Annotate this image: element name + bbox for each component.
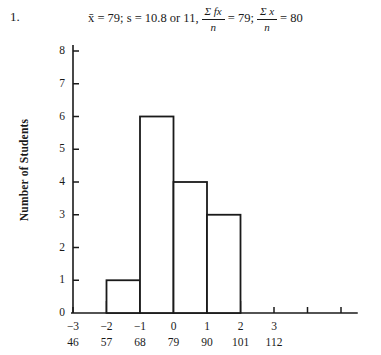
fraction-numerator: Σ x <box>257 5 277 19</box>
histogram-bar <box>107 280 141 313</box>
fraction-denominator: n <box>202 19 225 34</box>
x-axis-ztick-label: 0 <box>161 321 187 333</box>
x-axis-ztick-label: −1 <box>127 321 153 333</box>
item-number: 1. <box>10 10 20 23</box>
y-axis-tick-label: 3 <box>45 209 65 221</box>
y-axis-tick-label: 0 <box>45 307 65 319</box>
fraction-sum-fx-over-n: Σ fx n <box>202 5 225 33</box>
histogram-chart: Number of Students 012345678−346−257−168… <box>0 38 381 355</box>
histogram-bar <box>140 117 174 314</box>
fraction-numerator: Σ fx <box>202 5 225 19</box>
x-axis-value-label: 112 <box>259 337 289 349</box>
histogram-bar <box>174 182 208 313</box>
frac2-equals-value: = 80 <box>280 12 303 25</box>
x-axis-value-label: 46 <box>58 337 88 349</box>
mean-and-sd-text: x̄ = 79; s = 10.8 or 11, <box>88 12 199 25</box>
y-axis-tick-label: 2 <box>45 242 65 254</box>
x-axis-ztick-label: 3 <box>261 321 287 333</box>
x-axis-value-label: 101 <box>226 337 256 349</box>
x-axis-value-label: 68 <box>125 337 155 349</box>
x-axis-ztick-label: 1 <box>194 321 220 333</box>
fraction-sum-x-over-n: Σ x n <box>257 5 277 33</box>
answer-line: 1. x̄ = 79; s = 10.8 or 11, Σ fx n = 79;… <box>0 0 381 38</box>
y-axis-tick-label: 8 <box>45 45 65 57</box>
y-axis-tick-label: 5 <box>45 143 65 155</box>
x-axis-value-label: 79 <box>159 337 189 349</box>
y-axis-tick-label: 1 <box>45 274 65 286</box>
x-axis-ztick-label: −3 <box>60 321 86 333</box>
frac1-equals-value: = 79; <box>228 12 254 25</box>
answer-formula: x̄ = 79; s = 10.8 or 11, Σ fx n = 79; Σ … <box>88 4 303 32</box>
y-axis-tick-label: 6 <box>45 111 65 123</box>
fraction-denominator: n <box>257 19 277 34</box>
histogram-bar <box>207 215 241 313</box>
x-axis-ztick-label: −2 <box>94 321 120 333</box>
x-axis-ztick-label: 2 <box>228 321 254 333</box>
x-axis-value-label: 90 <box>192 337 222 349</box>
x-axis-value-label: 57 <box>92 337 122 349</box>
y-axis-tick-label: 4 <box>45 176 65 188</box>
y-axis-tick-label: 7 <box>45 78 65 90</box>
